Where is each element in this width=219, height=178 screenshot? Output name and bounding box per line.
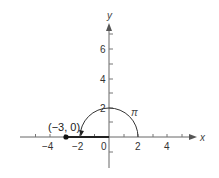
x-axis-arrow-icon — [189, 134, 197, 140]
y-tick-label: 2 — [100, 103, 106, 114]
arc-length-label: π — [131, 107, 138, 118]
x-tick-label: −4 — [42, 141, 54, 152]
x-tick-label: 2 — [135, 141, 141, 152]
x-tick-label: 0 — [101, 141, 107, 152]
coordinate-diagram: −4 −2 0 2 4 2 4 6 x y (−3, 0) π — [0, 0, 219, 178]
x-tick-label: −2 — [72, 141, 84, 152]
start-point-dot — [63, 134, 68, 139]
y-tick-label: 4 — [100, 74, 106, 85]
y-axis-label: y — [106, 10, 113, 21]
y-axis — [106, 23, 113, 168]
y-axis-arrow-icon — [106, 23, 112, 31]
x-axis-label: x — [199, 132, 206, 143]
x-tick-label: 4 — [164, 141, 170, 152]
y-tick-label: 6 — [100, 44, 106, 55]
start-point-label: (−3, 0) — [48, 121, 80, 133]
